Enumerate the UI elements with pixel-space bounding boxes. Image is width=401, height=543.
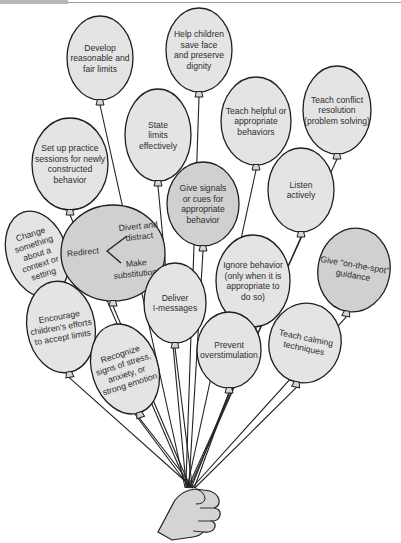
balloon-label: Prevent bbox=[214, 340, 244, 350]
balloon-knot bbox=[252, 165, 260, 171]
balloon-knot bbox=[109, 301, 117, 307]
balloon-knot bbox=[154, 181, 162, 187]
balloon-label: appropriate to bbox=[226, 281, 279, 291]
balloon-knot bbox=[96, 100, 104, 106]
balloon-knot bbox=[297, 232, 305, 238]
balloon-knot bbox=[225, 388, 233, 394]
balloon-label: behavior bbox=[54, 175, 87, 185]
balloon-label: Teach conflict bbox=[311, 95, 364, 105]
balloon-label: Ignore behavior bbox=[223, 260, 283, 270]
balloon-label: limits bbox=[148, 130, 168, 140]
balloon-save-face: Help childrensave faceand preservedignit… bbox=[166, 8, 232, 97]
balloon-knot bbox=[66, 210, 74, 216]
balloon-label: do so) bbox=[241, 292, 265, 302]
balloon-label: Set up practice bbox=[41, 143, 99, 153]
balloon-label: behaviors bbox=[237, 127, 274, 137]
balloon-label: Listen bbox=[290, 180, 313, 190]
balloon-label: Deliver bbox=[162, 293, 189, 303]
balloon-practice-sessions: Set up practicesessions for newlyconstru… bbox=[32, 118, 108, 215]
balloon-label: Teach helpful or bbox=[226, 106, 287, 116]
balloon-label: Give signals bbox=[180, 183, 227, 193]
balloon-label: sessions for newly bbox=[35, 154, 106, 164]
balloon-label: overstimulation bbox=[200, 350, 258, 360]
balloon-knot bbox=[195, 92, 203, 98]
balloon-listen-actively: Listenactively bbox=[268, 148, 334, 237]
balloon-label: fair limits bbox=[83, 64, 117, 74]
balloon-label: save face bbox=[181, 40, 218, 50]
balloon-knot bbox=[171, 343, 179, 349]
balloon-signals-cues: Give signalsor cues forappropriatebehavi… bbox=[167, 162, 239, 251]
balloon-label: resolution bbox=[318, 105, 355, 115]
balloon-develop-limits: Developreasonable andfair limits bbox=[67, 16, 133, 105]
hand-icon bbox=[158, 489, 220, 540]
balloon-label: reasonable and bbox=[70, 53, 129, 63]
balloon-bouquet-figure: Developreasonable andfair limitsHelp chi… bbox=[0, 0, 401, 543]
balloon-label: and preserve bbox=[174, 50, 224, 60]
balloon-label: Help children bbox=[174, 29, 224, 39]
balloon-label: appropriate bbox=[234, 116, 278, 126]
balloon-label: (problem solving) bbox=[304, 116, 370, 126]
balloon-label: effectively bbox=[139, 141, 178, 151]
balloon-knot bbox=[199, 246, 207, 252]
balloon-knot bbox=[333, 154, 341, 160]
balloon-knot bbox=[292, 381, 301, 388]
balloon-label: behavior bbox=[187, 215, 220, 225]
balloon-label: State bbox=[148, 120, 168, 130]
balloon-label: actively bbox=[287, 190, 316, 200]
balloon-label: I-messages bbox=[153, 303, 197, 313]
balloon-label: or cues for bbox=[183, 194, 224, 204]
balloon-teach-helpful: Teach helpful orappropriatebehaviors bbox=[221, 77, 291, 170]
balloon-string bbox=[194, 393, 229, 488]
balloon-label: appropriate bbox=[181, 204, 225, 214]
balloon-prevent-overstimulation: Preventoverstimulation bbox=[197, 312, 261, 393]
balloon-label: (only when it is bbox=[225, 271, 282, 281]
balloon-i-messages: DeliverI-messages bbox=[144, 263, 206, 348]
balloon-label: dignity bbox=[187, 61, 213, 71]
balloon-conflict-resolution: Teach conflictresolution(problem solving… bbox=[303, 66, 371, 159]
balloon-label: Develop bbox=[84, 43, 116, 53]
balloon-label: constructed bbox=[48, 164, 93, 174]
balloons: Developreasonable andfair limitsHelp chi… bbox=[0, 8, 397, 428]
